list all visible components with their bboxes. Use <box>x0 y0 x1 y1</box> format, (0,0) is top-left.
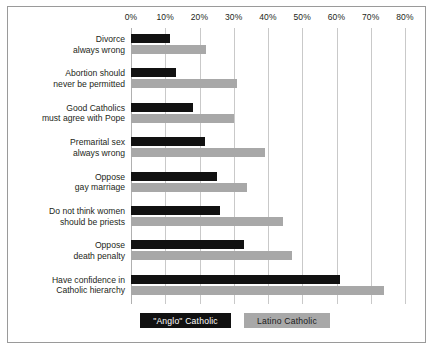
category-label-line: Good Catholics <box>0 103 125 114</box>
bar-anglo-catholic <box>131 137 205 146</box>
category-label: Divorcealways wrong <box>0 34 125 55</box>
chart-figure: 0%10%20%30%40%50%60%70%80% Divorcealways… <box>0 0 436 359</box>
bar-group: Opposedeath penalty <box>131 240 405 262</box>
bar-latino-catholic <box>131 286 384 295</box>
bar-latino-catholic <box>131 79 237 88</box>
bar-latino-catholic <box>131 114 234 123</box>
x-tick-label: 30% <box>225 12 243 22</box>
gridline-80% <box>405 28 406 304</box>
category-label-line: Have confidence in <box>0 275 125 286</box>
bar-latino-catholic <box>131 45 206 54</box>
x-tick-label: 0% <box>125 12 138 22</box>
bar-anglo-catholic <box>131 240 244 249</box>
bar-anglo-catholic <box>131 172 217 181</box>
x-tick-label: 80% <box>396 12 414 22</box>
bar-latino-catholic <box>131 251 292 260</box>
category-label-line: Divorce <box>0 34 125 45</box>
bar-anglo-catholic <box>131 206 220 215</box>
category-label-line: Catholic hierarchy <box>0 285 125 296</box>
category-label-line: should be priests <box>0 217 125 228</box>
x-tick-label: 70% <box>362 12 380 22</box>
category-label: Do not think womenshould be priests <box>0 206 125 227</box>
category-label: Opposedeath penalty <box>0 240 125 261</box>
legend-label-latino-catholic: Latino Catholic <box>257 316 317 326</box>
category-label: Good Catholicsmust agree with Pope <box>0 103 125 124</box>
bar-latino-catholic <box>131 183 247 192</box>
bar-latino-catholic <box>131 148 265 157</box>
category-label-line: Oppose <box>0 240 125 251</box>
bar-group: Good Catholicsmust agree with Pope <box>131 103 405 125</box>
legend-item-anglo-catholic: "Anglo" Catholic <box>140 313 231 328</box>
category-label-line: Abortion should <box>0 68 125 79</box>
bar-group: Have confidence inCatholic hierarchy <box>131 275 405 297</box>
category-label-line: Premarital sex <box>0 137 125 148</box>
bar-group: Opposegay marriage <box>131 172 405 194</box>
category-label-line: death penalty <box>0 251 125 262</box>
category-label-line: Oppose <box>0 172 125 183</box>
bar-latino-catholic <box>131 217 283 226</box>
bar-anglo-catholic <box>131 275 340 284</box>
legend-label-anglo-catholic: "Anglo" Catholic <box>153 316 218 326</box>
category-label-line: always wrong <box>0 45 125 56</box>
category-label: Have confidence inCatholic hierarchy <box>0 275 125 296</box>
bar-anglo-catholic <box>131 34 170 43</box>
category-label: Abortion shouldnever be permitted <box>0 68 125 89</box>
x-tick-label: 10% <box>156 12 174 22</box>
plot-area: 0%10%20%30%40%50%60%70%80% Divorcealways… <box>131 28 405 304</box>
bar-anglo-catholic <box>131 68 176 77</box>
category-label-line: never be permitted <box>0 79 125 90</box>
legend-item-latino-catholic: Latino Catholic <box>244 313 330 328</box>
x-tick-label: 50% <box>293 12 311 22</box>
category-label-line: gay marriage <box>0 182 125 193</box>
category-label-line: always wrong <box>0 148 125 159</box>
bar-group: Divorcealways wrong <box>131 34 405 56</box>
x-tick-label: 60% <box>328 12 346 22</box>
x-tick-label: 20% <box>191 12 209 22</box>
bar-group: Premarital sexalways wrong <box>131 137 405 159</box>
bar-anglo-catholic <box>131 103 193 112</box>
category-label: Opposegay marriage <box>0 172 125 193</box>
bar-group: Do not think womenshould be priests <box>131 206 405 228</box>
bar-group: Abortion shouldnever be permitted <box>131 68 405 90</box>
x-tick-label: 40% <box>259 12 277 22</box>
category-label-line: Do not think women <box>0 206 125 217</box>
category-label: Premarital sexalways wrong <box>0 137 125 158</box>
category-label-line: must agree with Pope <box>0 113 125 124</box>
